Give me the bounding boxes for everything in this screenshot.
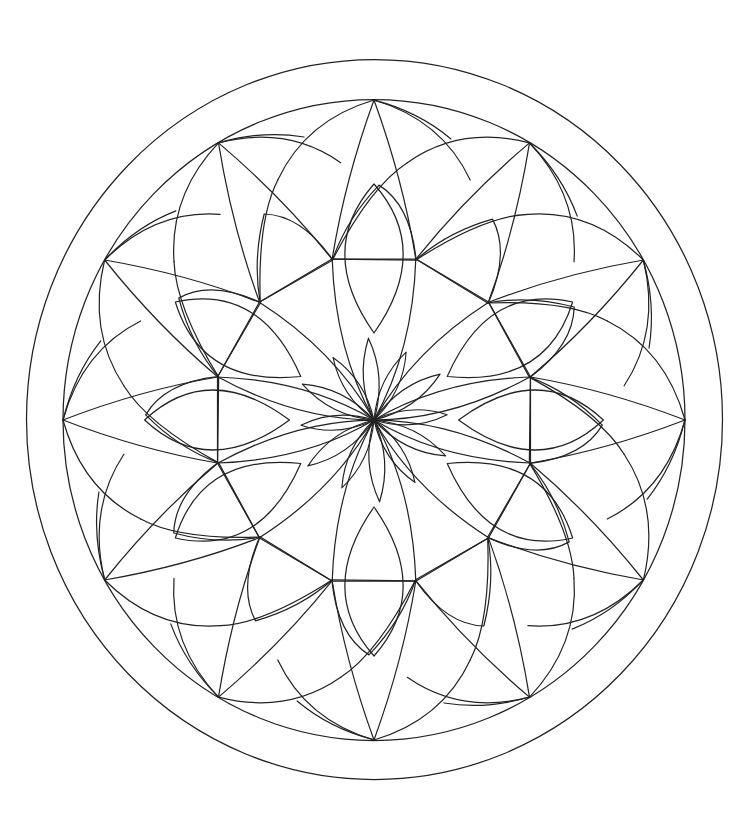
- center-flower: [295, 333, 452, 507]
- mandala-canvas: Mandala coloring page: [0, 0, 745, 826]
- mandala-drawing: [0, 0, 745, 826]
- mandala-pattern: [27, 63, 721, 777]
